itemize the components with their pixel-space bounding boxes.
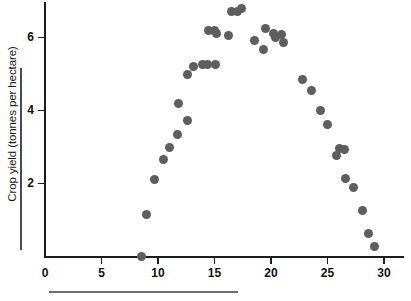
y-axis-tick-label: 6 — [18, 30, 34, 44]
y-axis-line — [44, 2, 46, 258]
data-point — [165, 143, 174, 152]
data-point — [341, 174, 350, 183]
data-point — [349, 183, 358, 192]
data-point — [237, 4, 246, 13]
scatter-chart-figure: Crop yield (tonnes per hectare) 24605101… — [0, 0, 411, 301]
data-point — [298, 75, 307, 84]
x-axis-tick — [101, 258, 103, 264]
data-point — [150, 175, 159, 184]
data-point — [316, 106, 325, 115]
data-point — [173, 130, 182, 139]
data-point — [174, 99, 183, 108]
data-point — [159, 155, 168, 164]
data-point — [323, 120, 332, 129]
data-point — [183, 70, 192, 79]
plot-area: 246051015202530 — [0, 0, 411, 301]
y-axis-tick-label: 2 — [18, 176, 34, 190]
data-point — [137, 252, 146, 261]
data-point — [211, 60, 220, 69]
y-axis-tick — [38, 110, 44, 112]
data-point — [212, 29, 221, 38]
x-axis-tick — [383, 258, 385, 264]
data-point — [279, 38, 288, 47]
x-axis-title-rule — [49, 291, 238, 293]
x-axis-tick — [214, 258, 216, 264]
data-point — [364, 229, 373, 238]
x-axis-tick-label: 5 — [90, 266, 114, 280]
x-axis-tick-label: 30 — [372, 266, 396, 280]
data-point — [189, 62, 198, 71]
y-axis-tick — [38, 37, 44, 39]
data-point — [250, 36, 259, 45]
y-axis-tick — [38, 183, 44, 185]
y-axis-tick-label: 4 — [18, 103, 34, 117]
data-point — [307, 86, 316, 95]
x-axis-tick-label: 0 — [33, 266, 57, 280]
x-axis-tick-label: 20 — [259, 266, 283, 280]
data-point — [340, 145, 349, 154]
x-axis-tick-label: 15 — [203, 266, 227, 280]
data-point — [370, 242, 379, 251]
x-axis-tick — [157, 258, 159, 264]
x-axis-tick-label: 25 — [316, 266, 340, 280]
x-axis-line — [44, 256, 404, 258]
data-point — [142, 210, 151, 219]
data-point — [358, 206, 367, 215]
data-point — [183, 116, 192, 125]
x-axis-tick — [270, 258, 272, 264]
x-axis-tick-label: 10 — [146, 266, 170, 280]
data-point — [224, 31, 233, 40]
data-point — [259, 45, 268, 54]
x-axis-tick — [327, 258, 329, 264]
